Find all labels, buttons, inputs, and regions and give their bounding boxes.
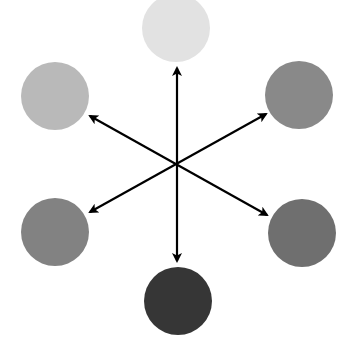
- color-value-diagram: [0, 0, 348, 355]
- arrows-layer: [90, 68, 267, 261]
- circle-top: [142, 0, 210, 62]
- circle-lower-right: [268, 199, 336, 267]
- circles-layer: [21, 0, 336, 335]
- circle-bottom: [144, 267, 212, 335]
- circle-upper-left: [21, 62, 89, 130]
- circle-upper-right: [265, 61, 333, 129]
- circle-lower-left: [21, 198, 89, 266]
- arrow-upper-left-to-lower-right: [90, 116, 267, 215]
